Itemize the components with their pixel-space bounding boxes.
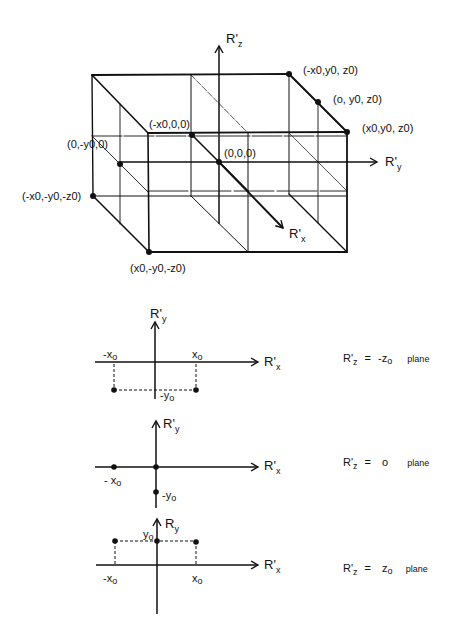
plane-diagram-zero: R'y R'x - xo -yo R'z = o plane bbox=[95, 416, 429, 508]
point-neg-x0-neg-y0-neg-z0 bbox=[90, 193, 96, 199]
point-0-y0 bbox=[154, 538, 160, 544]
point-neg-x0-y0-z0 bbox=[286, 71, 292, 77]
ry-label: Ry bbox=[165, 516, 179, 534]
label-y0: yo bbox=[143, 528, 154, 542]
label-neg-x0: -xo bbox=[103, 348, 117, 362]
label-neg-x0: -xo bbox=[103, 572, 117, 586]
point-neg-x0 bbox=[111, 464, 117, 470]
ry-label: R'y bbox=[150, 306, 167, 324]
point-0-neg-y0-0 bbox=[117, 161, 123, 167]
point-neg-x0-neg-y0 bbox=[111, 387, 117, 393]
label-x0: xo bbox=[192, 348, 203, 362]
label-neg-x0-y0-z0: (-x0,y0, z0) bbox=[303, 64, 358, 76]
rx-label: R'x bbox=[289, 226, 306, 244]
label-x0: xo bbox=[192, 572, 203, 586]
ry-label: R'y bbox=[163, 416, 180, 434]
point-neg-y0 bbox=[153, 489, 159, 495]
caption-neg-z0-plane: R'z = -zo plane bbox=[343, 352, 429, 367]
labels-3d: R'z R'y R'x (-x0,y0, z0) (o, y0, z0) (x0… bbox=[22, 31, 413, 274]
point-x0-neg-y0-neg-z0 bbox=[146, 249, 152, 255]
point-neg-x0-0-0 bbox=[189, 132, 195, 138]
label-neg-x0: - xo bbox=[104, 474, 121, 488]
point-x0-neg-y0 bbox=[193, 387, 199, 393]
plane-diagram-neg-z0: R'y R'x -xo xo -yo R'z = -zo plane bbox=[95, 306, 429, 403]
coordinate-diagram: R'z R'y R'x (-x0,y0, z0) (o, y0, z0) (x0… bbox=[0, 0, 462, 632]
label-0-y0-z0: (o, y0, z0) bbox=[333, 93, 382, 105]
caption-zero-plane: R'z = o plane bbox=[343, 456, 429, 471]
rx-label: R'x bbox=[264, 354, 281, 372]
plane-diagram-z0: Ry R'x yo -xo xo R'z = zo plane bbox=[96, 516, 428, 614]
label-origin: (0,0,0) bbox=[224, 147, 256, 159]
label-x0-neg-y0-neg-z0: (x0,-y0,-z0) bbox=[130, 262, 186, 274]
rz-label: R'z bbox=[226, 31, 243, 49]
point-x0-y0-z0 bbox=[344, 129, 350, 135]
label-neg-y0: -yo bbox=[160, 389, 174, 403]
label-0-neg-y0-0: (0,-y0,0) bbox=[67, 138, 108, 150]
point-0-y0-z0 bbox=[315, 99, 321, 105]
caption-z0-plane: R'z = zo plane bbox=[343, 562, 428, 577]
rx-label: R'x bbox=[264, 458, 281, 476]
rx-label: R'x bbox=[264, 557, 281, 575]
point-origin bbox=[216, 159, 222, 165]
point-origin bbox=[153, 464, 159, 470]
ry-label: R'y bbox=[385, 154, 402, 172]
points-3d bbox=[90, 71, 350, 255]
point-x0-y0 bbox=[193, 539, 199, 545]
point-neg-x0-y0 bbox=[112, 538, 118, 544]
rx-axis bbox=[219, 162, 283, 228]
label-neg-x0-0-0: (-x0,0,0) bbox=[149, 118, 190, 130]
box-back-face bbox=[92, 74, 289, 75]
label-x0-y0-z0: (x0,y0, z0) bbox=[362, 122, 413, 134]
label-neg-y0: -yo bbox=[162, 489, 176, 503]
label-neg-x0-neg-y0-neg-z0: (-x0,-y0,-z0) bbox=[22, 190, 81, 202]
